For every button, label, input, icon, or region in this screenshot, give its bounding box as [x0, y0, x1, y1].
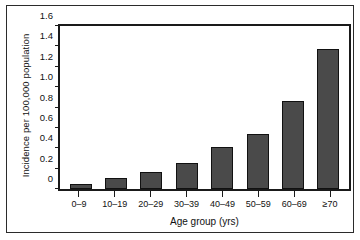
bar-5059[interactable] — [247, 134, 269, 189]
y-tick-label: 0.8 — [40, 91, 53, 102]
y-tick-label: 0.4 — [40, 132, 53, 143]
bar-slot — [169, 26, 204, 189]
bar-1019[interactable] — [105, 178, 127, 189]
y-tick-label: 0.2 — [40, 152, 53, 163]
x-tick-mark — [114, 191, 115, 197]
bar-6069[interactable] — [282, 101, 304, 189]
x-tick-slot — [133, 191, 169, 197]
y-tick-label: 1.6 — [40, 10, 53, 21]
y-axis-title: Incidence per 100,000 population — [20, 21, 31, 191]
x-axis-title: Age group (yrs) — [58, 216, 351, 227]
x-tick-label: ≥70 — [312, 199, 348, 209]
plot-area: 00.20.40.60.81.01.21.41.6 — [58, 24, 351, 191]
x-tick-mark — [222, 191, 223, 197]
bar-3039[interactable] — [176, 163, 198, 189]
x-tick-label: 50–59 — [240, 199, 276, 209]
bar-slot — [98, 26, 133, 189]
x-tick-label: 60–69 — [276, 199, 312, 209]
x-tick-mark — [186, 191, 187, 197]
y-tick-label: 0.6 — [40, 111, 53, 122]
y-tick-label: 1.2 — [40, 50, 53, 61]
x-tick-mark — [330, 191, 331, 197]
x-axis-tick-labels: 0–910–1920–2930–3940–4950–5960–69≥70 — [58, 199, 351, 209]
bar-slot — [275, 26, 310, 189]
x-tick-slot — [97, 191, 133, 197]
bar-slot — [63, 26, 98, 189]
bar-slot — [134, 26, 169, 189]
x-tick-slot — [205, 191, 241, 197]
bar-09[interactable] — [70, 184, 92, 189]
x-tick-mark — [150, 191, 151, 197]
bar-series — [60, 26, 349, 189]
figure: Incidence per 100,000 population 00.20.4… — [0, 0, 360, 240]
x-tick-mark — [78, 191, 79, 197]
x-tick-label: 40–49 — [205, 199, 241, 209]
figure-frame: Incidence per 100,000 population 00.20.4… — [6, 5, 354, 233]
x-tick-label: 0–9 — [61, 199, 97, 209]
x-tick-label: 10–19 — [97, 199, 133, 209]
x-tick-label: 20–29 — [133, 199, 169, 209]
bar-slot — [205, 26, 240, 189]
x-tick-slot — [169, 191, 205, 197]
y-tick-label: 1.4 — [40, 30, 53, 41]
bar-2029[interactable] — [140, 172, 162, 189]
y-tick-label: 1.0 — [40, 71, 53, 82]
bar-70[interactable] — [317, 49, 339, 189]
x-tick-slot — [61, 191, 97, 197]
bar-slot — [240, 26, 275, 189]
y-tick-label: 0 — [48, 173, 53, 184]
x-tick-slot — [240, 191, 276, 197]
x-tick-label: 30–39 — [169, 199, 205, 209]
bar-slot — [311, 26, 346, 189]
x-tick-mark — [294, 191, 295, 197]
x-tick-mark — [258, 191, 259, 197]
x-axis-ticks — [58, 191, 351, 197]
x-tick-slot — [312, 191, 348, 197]
bar-4049[interactable] — [211, 147, 233, 189]
x-tick-slot — [276, 191, 312, 197]
